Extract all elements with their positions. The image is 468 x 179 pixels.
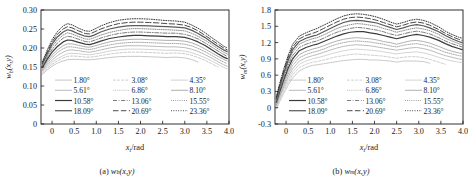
x-tick-label: 2.0 — [369, 127, 379, 136]
y-axis-title: wb(x,y) — [4, 55, 14, 79]
x-tick-label: 0 — [50, 127, 54, 136]
x-tick-label: 3.5 — [436, 127, 446, 136]
x-tick-label: 1.5 — [347, 127, 357, 136]
panel-a: 00.51.01.52.02.53.03.54.000.050.100.150.… — [0, 0, 234, 179]
chart-a: 00.51.01.52.02.53.03.54.000.050.100.150.… — [0, 0, 234, 179]
svg-text:wm(x,y): wm(x,y) — [238, 54, 248, 79]
y-tick-label: 0.9 — [261, 55, 271, 64]
x-tick-label: 4.0 — [224, 127, 234, 136]
y-tick-label: 1.2 — [261, 39, 271, 48]
legend-label-0: 1.80° — [308, 76, 324, 85]
x-tick-label: 2.5 — [158, 127, 168, 136]
y-tick-label: 0.25 — [23, 25, 37, 34]
y-tick-label: -0.3 — [258, 120, 271, 129]
legend-label-5: 8.10° — [190, 86, 206, 95]
legend-label-8: 15.55° — [190, 97, 210, 106]
x-tick-label: 0 — [284, 127, 288, 136]
x-tick-label: 4.0 — [458, 127, 468, 136]
legend-label-9: 18.09° — [308, 107, 328, 116]
x-tick-label: 1.5 — [113, 127, 123, 136]
legend-label-9: 18.09° — [74, 107, 94, 116]
legend-label-6: 10.58° — [74, 97, 94, 106]
x-tick-label: 3.0 — [414, 127, 424, 136]
legend-label-7: 13.06° — [132, 97, 152, 106]
caption-b: (b) wm(x,y) — [333, 167, 370, 176]
legend-label-11: 23.36° — [424, 107, 444, 116]
y-tick-label: 0.05 — [23, 101, 37, 110]
legend-label-10: 20.69° — [366, 107, 386, 116]
y-tick-label: 0.3 — [261, 87, 271, 96]
legend-label-11: 23.36° — [190, 107, 210, 116]
legend-label-8: 15.55° — [424, 97, 444, 106]
legend-label-1: 3.08° — [366, 76, 382, 85]
legend-label-2: 4.35° — [424, 76, 440, 85]
y-tick-label: 0.6 — [261, 71, 271, 80]
panel-b: 00.51.01.52.02.53.03.54.0-0.300.30.60.91… — [234, 0, 468, 179]
legend-label-10: 20.69° — [132, 107, 152, 116]
y-tick-label: 1.5 — [261, 22, 271, 31]
legend-label-5: 8.10° — [424, 86, 440, 95]
y-axis-title: wm(x,y) — [238, 54, 248, 79]
x-tick-label: 2.0 — [135, 127, 145, 136]
legend-label-7: 13.06° — [366, 97, 386, 106]
y-tick-label: 0.20 — [23, 44, 37, 53]
x-axis-title: xt/rad — [125, 143, 145, 153]
y-tick-label: 1.8 — [261, 6, 271, 15]
x-tick-label: 1.0 — [91, 127, 101, 136]
x-axis-title: xt/rad — [359, 143, 379, 153]
legend-label-0: 1.80° — [74, 76, 90, 85]
y-tick-label: 0.15 — [23, 63, 37, 72]
legend-label-2: 4.35° — [190, 76, 206, 85]
legend-label-3: 5.61° — [308, 86, 324, 95]
legend-label-6: 10.58° — [308, 97, 328, 106]
x-tick-label: 3.0 — [180, 127, 190, 136]
chart-b: 00.51.01.52.02.53.03.54.0-0.300.30.60.91… — [234, 0, 468, 179]
legend-label-1: 3.08° — [132, 76, 148, 85]
x-tick-label: 1.0 — [325, 127, 335, 136]
legend-label-4: 6.86° — [366, 86, 382, 95]
x-tick-label: 3.5 — [202, 127, 212, 136]
figure-container: 00.51.01.52.02.53.03.54.000.050.100.150.… — [0, 0, 468, 179]
x-tick-label: 0.5 — [69, 127, 79, 136]
caption-a: (a) wb(x,y) — [99, 167, 134, 176]
y-tick-label: 0.10 — [23, 82, 37, 91]
y-tick-label: 0.30 — [23, 6, 37, 15]
caption-a-wrap: (a) wb(x,y) — [0, 160, 234, 178]
y-tick-label: 0 — [267, 104, 271, 113]
legend-label-3: 5.61° — [74, 86, 90, 95]
x-tick-label: 2.5 — [392, 127, 402, 136]
svg-text:wb(x,y): wb(x,y) — [4, 55, 14, 79]
caption-b-wrap: (b) wm(x,y) — [234, 160, 468, 178]
x-tick-label: 0.5 — [303, 127, 313, 136]
legend-label-4: 6.86° — [132, 86, 148, 95]
y-tick-label: 0 — [33, 120, 37, 129]
